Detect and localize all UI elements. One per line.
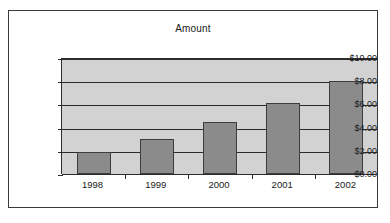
y-tick-mark bbox=[58, 82, 63, 83]
bar-slot bbox=[188, 59, 251, 174]
x-tick-label: 2000 bbox=[208, 179, 229, 190]
x-tick-mark bbox=[188, 174, 189, 179]
x-tick-mark bbox=[125, 174, 126, 179]
y-tick-label: $8.00 bbox=[331, 76, 377, 86]
y-tick-mark bbox=[58, 175, 63, 176]
y-tick-label: $0.00 bbox=[331, 169, 377, 179]
chart-title: Amount bbox=[9, 23, 377, 34]
chart-frame: Amount $10.00$8.00$6.00$4.00$2.00$0.0019… bbox=[8, 10, 378, 208]
y-tick-label: $6.00 bbox=[331, 99, 377, 109]
y-tick-mark bbox=[58, 59, 63, 60]
bar[interactable] bbox=[203, 122, 237, 174]
bar-slot bbox=[252, 59, 315, 174]
x-tick-label: 1999 bbox=[145, 179, 166, 190]
x-axis-line bbox=[62, 174, 377, 175]
x-tick-label: 2001 bbox=[272, 179, 293, 190]
y-tick-label: $4.00 bbox=[331, 123, 377, 133]
y-axis bbox=[9, 11, 57, 207]
y-tick-label: $2.00 bbox=[331, 146, 377, 156]
x-tick-mark bbox=[315, 174, 316, 179]
bar-slot bbox=[125, 59, 188, 174]
bar-slot bbox=[62, 59, 125, 174]
y-tick-mark bbox=[58, 105, 63, 106]
bars-layer bbox=[62, 59, 377, 174]
x-tick-mark bbox=[252, 174, 253, 179]
y-tick-label: $10.00 bbox=[331, 53, 377, 63]
plot-area bbox=[61, 58, 377, 174]
bar[interactable] bbox=[140, 139, 174, 174]
x-tick-label: 1998 bbox=[82, 179, 103, 190]
bar[interactable] bbox=[266, 103, 300, 174]
bar[interactable] bbox=[77, 152, 111, 174]
y-tick-mark bbox=[58, 129, 63, 130]
y-tick-mark bbox=[58, 152, 63, 153]
x-tick-label: 2002 bbox=[335, 179, 356, 190]
